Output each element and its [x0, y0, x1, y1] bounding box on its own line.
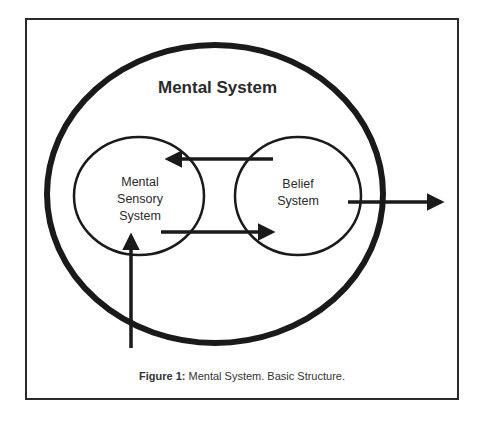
- diagram-canvas: [0, 0, 482, 423]
- node-label-line: Mental: [95, 174, 185, 191]
- caption-label: Figure 1:: [139, 370, 185, 382]
- node-label-line: System: [95, 208, 185, 225]
- node-label-line: Belief: [253, 176, 343, 193]
- figure-caption: Figure 1: Mental System. Basic Structure…: [25, 370, 459, 382]
- mental-sensory-system-label: Mental Sensory System: [95, 174, 185, 225]
- caption-text: Mental System. Basic Structure.: [185, 370, 345, 382]
- belief-system-label: Belief System: [253, 176, 343, 210]
- node-label-line: Sensory: [95, 191, 185, 208]
- node-label-line: System: [253, 193, 343, 210]
- diagram-title: Mental System: [140, 78, 295, 98]
